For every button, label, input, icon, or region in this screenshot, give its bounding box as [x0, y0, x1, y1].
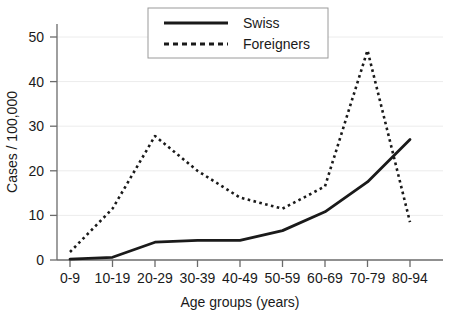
y-tick-label-40: 40: [28, 74, 44, 90]
y-tick-label-50: 50: [28, 29, 44, 45]
legend: Swiss Foreigners: [148, 8, 328, 58]
x-tick-label-6: 60-69: [307, 270, 343, 286]
legend-label-swiss: Swiss: [243, 15, 280, 31]
x-tick-label-5: 50-59: [265, 270, 301, 286]
line-chart: 50 40 30 20 10 0 Cases / 100,000 0-9 10-…: [0, 0, 453, 326]
x-tick-label-8: 80-94: [392, 270, 428, 286]
x-axis-title: Age groups (years): [180, 294, 299, 310]
y-axis-title: Cases / 100,000: [4, 91, 20, 193]
y-tick-label-30: 30: [28, 118, 44, 134]
y-tick-label-10: 10: [28, 207, 44, 223]
chart-container: 50 40 30 20 10 0 Cases / 100,000 0-9 10-…: [0, 0, 453, 326]
legend-label-foreigners: Foreigners: [243, 36, 310, 52]
x-tick-label-0: 0-9: [60, 270, 80, 286]
x-tick-label-2: 20-29: [137, 270, 173, 286]
x-tick-label-3: 30-39: [180, 270, 216, 286]
x-tick-label-4: 40-49: [222, 270, 258, 286]
y-tick-label-0: 0: [36, 252, 44, 268]
x-tick-label-1: 10-19: [95, 270, 131, 286]
x-tick-label-7: 70-79: [350, 270, 386, 286]
y-tick-label-20: 20: [28, 163, 44, 179]
